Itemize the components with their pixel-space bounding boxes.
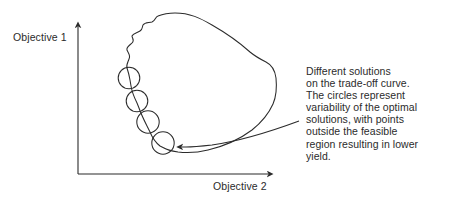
callout-arrow bbox=[182, 121, 299, 147]
tradeoff-curve-figure: Objective 1 Objective 2 Different soluti… bbox=[0, 0, 449, 205]
x-axis-label: Objective 2 bbox=[213, 180, 267, 192]
annotation-line: region resulting in lower bbox=[306, 138, 446, 150]
annotation-line: Different solutions bbox=[306, 65, 446, 77]
annotation-line: yield. bbox=[306, 150, 446, 162]
annotation-line: The circles represent bbox=[306, 89, 446, 101]
annotation-line: on the trade-off curve. bbox=[306, 77, 446, 89]
annotation-text-block: Different solutions on the trade-off cur… bbox=[306, 65, 446, 162]
variability-circle bbox=[137, 111, 159, 133]
y-axis-label: Objective 1 bbox=[13, 31, 67, 43]
variability-circle bbox=[126, 90, 148, 112]
annotation-line: solutions, with points bbox=[306, 113, 446, 125]
variability-circle bbox=[152, 132, 174, 154]
variability-circle bbox=[118, 67, 140, 89]
annotation-line: variability of the optimal bbox=[306, 101, 446, 113]
annotation-line: outside the feasible bbox=[306, 125, 446, 137]
feasible-region-outline bbox=[127, 13, 277, 153]
